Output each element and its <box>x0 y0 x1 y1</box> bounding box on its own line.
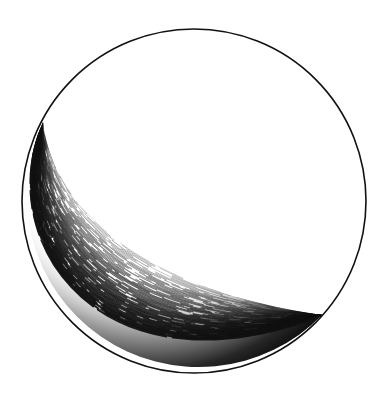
crescent-shading <box>0 0 385 393</box>
illustration: pen-and-ink drawing of a sphere with cre… <box>0 0 385 393</box>
